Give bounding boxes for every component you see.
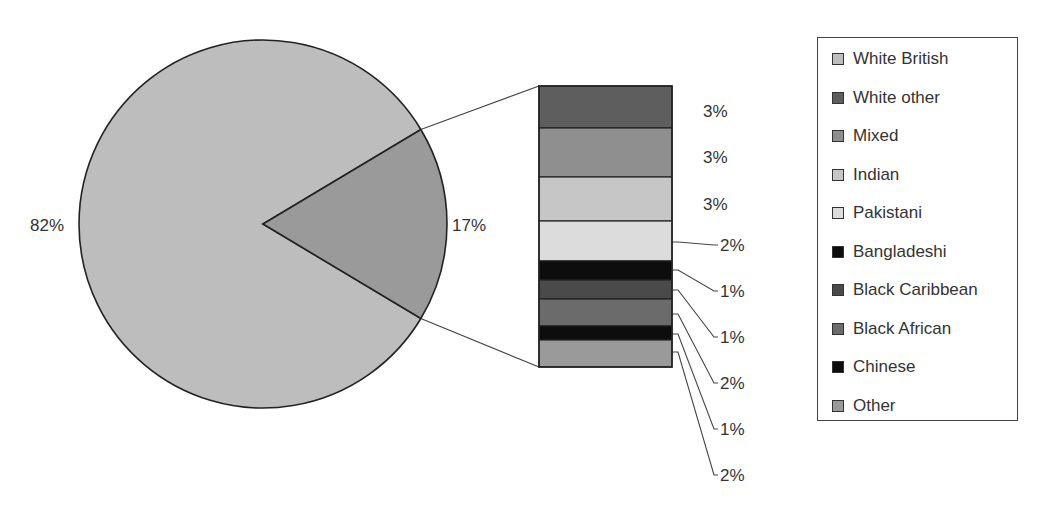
legend-item-mixed: Mixed [832, 124, 898, 148]
pie [79, 40, 447, 408]
legend-item-other: Other [832, 394, 896, 418]
bar-label-white-other: 3% [703, 102, 728, 121]
legend-item-indian: Indian [832, 163, 899, 187]
legend-swatch [832, 53, 844, 65]
legend-swatch [832, 284, 844, 296]
bar-segment-indian [539, 177, 672, 221]
legend-swatch [832, 246, 844, 258]
legend-item-white-british: White British [832, 47, 948, 71]
legend-item-white-other: White other [832, 86, 940, 110]
legend-label: Indian [853, 165, 899, 185]
bar-segment-black-caribbean [539, 280, 672, 299]
legend-item-black-african: Black African [832, 317, 951, 341]
bar-label-black-african: 2% [720, 374, 745, 393]
bar-label-mixed: 3% [703, 148, 728, 167]
bar-label-pakistani: 2% [720, 236, 745, 255]
legend-swatch [832, 169, 844, 181]
legend: White BritishWhite otherMixedIndianPakis… [817, 37, 1018, 421]
bar-segment-pakistani [539, 221, 672, 261]
bar-label-other: 2% [720, 466, 745, 485]
legend-label: White British [853, 49, 948, 69]
legend-swatch [832, 400, 844, 412]
bar-segment-other [539, 340, 672, 367]
legend-swatch [832, 130, 844, 142]
bar-label-bangladeshi: 1% [720, 282, 745, 301]
legend-item-pakistani: Pakistani [832, 201, 922, 225]
legend-swatch [832, 361, 844, 373]
bar-label-black-caribbean: 1% [720, 328, 745, 347]
legend-label: Black African [853, 319, 951, 339]
legend-label: Bangladeshi [853, 242, 947, 262]
bar-segment-bangladeshi [539, 261, 672, 280]
legend-item-chinese: Chinese [832, 355, 915, 379]
legend-swatch [832, 323, 844, 335]
bar-label-chinese: 1% [720, 420, 745, 439]
legend-label: Pakistani [853, 203, 922, 223]
legend-item-black-caribbean: Black Caribbean [832, 278, 978, 302]
bar-segment-chinese [539, 326, 672, 340]
bar-segment-mixed [539, 128, 672, 177]
pie-label-17: 17% [452, 216, 486, 235]
legend-label: White other [853, 88, 940, 108]
legend-item-bangladeshi: Bangladeshi [832, 240, 947, 264]
legend-label: Mixed [853, 126, 898, 146]
legend-swatch [832, 92, 844, 104]
bar-label-indian: 3% [703, 195, 728, 214]
pie-label-82: 82% [30, 216, 64, 235]
legend-label: Chinese [853, 357, 915, 377]
bar-segment-black-african [539, 299, 672, 326]
legend-label: Black Caribbean [853, 280, 978, 300]
legend-label: Other [853, 396, 896, 416]
bar-segment-white-other [539, 86, 672, 128]
legend-swatch [832, 207, 844, 219]
stacked-bar [539, 86, 672, 367]
